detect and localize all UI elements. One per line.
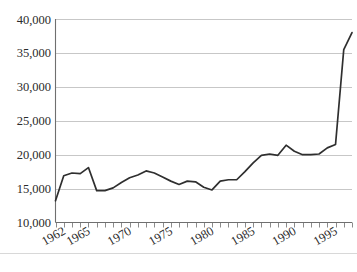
x-tick-label: 1980 (187, 224, 216, 249)
data-series-group (56, 33, 353, 201)
data-line-value (56, 33, 353, 201)
y-tick-label: 30,000 (17, 80, 51, 94)
y-tick-label: 20,000 (17, 148, 51, 162)
y-axis-tick-labels: 40,00035,00030,00025,00020,00015,00010,0… (17, 13, 51, 231)
gridlines-group (56, 20, 353, 190)
axis-lines (56, 19, 353, 223)
x-tick-label: 1995 (311, 224, 340, 249)
y-tick-label: 35,000 (17, 46, 51, 60)
y-tick-label: 25,000 (17, 114, 51, 128)
y-tick-label: 10,000 (17, 216, 51, 230)
x-tick-label: 1975 (146, 224, 175, 249)
chart-container: 40,00035,00030,00025,00020,00015,00010,0… (0, 0, 357, 272)
y-tick-label: 15,000 (17, 182, 51, 196)
line-chart: 40,00035,00030,00025,00020,00015,00010,0… (0, 0, 357, 272)
x-tick-label: 1970 (105, 224, 134, 249)
y-tick-label: 40,000 (17, 13, 51, 27)
x-tick-label: 1985 (229, 224, 258, 249)
